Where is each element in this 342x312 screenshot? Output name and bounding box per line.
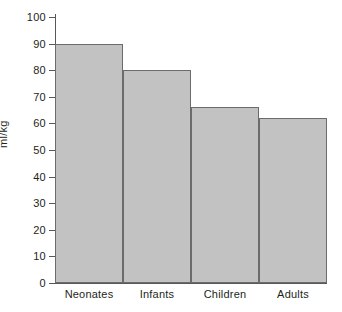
y-tick-label: 10 [10,250,46,262]
y-tick-label: 30 [10,197,46,209]
x-label-neonates: Neonates [55,288,123,300]
bar-adults [259,118,327,283]
y-tick-label: 100 [10,11,46,23]
y-tick-label: 20 [10,224,46,236]
bar-neonates [55,44,123,283]
y-tick-label: 70 [10,91,46,103]
y-tick-label: 0 [10,277,46,289]
bar-infants [123,70,191,283]
y-tick-label: 90 [10,38,46,50]
x-label-adults: Adults [259,288,327,300]
plot-area [55,17,327,283]
x-label-children: Children [191,288,259,300]
y-tick-label: 40 [10,171,46,183]
y-tick-mark [49,283,55,284]
bar-chart: ml/kg 0102030405060708090100 NeonatesInf… [0,0,342,312]
y-tick-label: 80 [10,64,46,76]
x-axis-line [55,283,327,284]
bar-children [191,107,259,283]
y-tick-label: 50 [10,144,46,156]
y-tick-label: 60 [10,117,46,129]
y-axis-title: ml/kg [0,120,9,148]
x-label-infants: Infants [123,288,191,300]
